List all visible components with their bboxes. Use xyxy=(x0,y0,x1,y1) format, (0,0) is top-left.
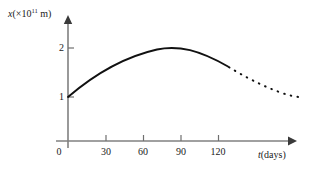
x-tick-marks xyxy=(106,135,219,141)
x-axis-label: t(days) xyxy=(258,150,286,160)
y-tick-label-2: 2 xyxy=(52,43,64,53)
y-tick-label-1: 1 xyxy=(52,92,64,102)
y-axis-arrowhead xyxy=(64,15,72,24)
x-tick-label-120: 120 xyxy=(206,147,230,157)
x-tick-label-60: 60 xyxy=(131,147,155,157)
x-axis-arrowhead xyxy=(288,137,297,146)
x-tick-label-90: 90 xyxy=(169,147,193,157)
curve-dotted-segment xyxy=(229,67,300,97)
y-tick-marks xyxy=(68,48,74,97)
x-tick-label-0: 0 xyxy=(47,147,71,157)
plot-area xyxy=(0,0,313,170)
y-axis-unit-close: m) xyxy=(38,8,52,19)
chart-figure: x(×1011 m) t(days) 0 30 60 90 120 1 2 xyxy=(0,0,313,170)
curve-solid-segment xyxy=(68,48,228,97)
y-axis-label: x(×1011 m) xyxy=(8,9,51,19)
x-tick-label-30: 30 xyxy=(94,147,118,157)
y-axis-unit-open: (×10 xyxy=(12,8,31,19)
x-axis-unit: (days) xyxy=(261,149,286,160)
